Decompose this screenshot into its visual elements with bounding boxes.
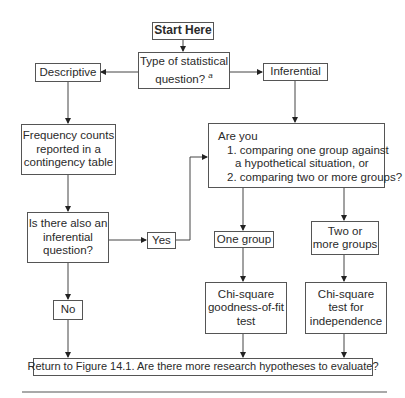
independence-line2: test for bbox=[310, 301, 382, 315]
inferential-label: Inferential bbox=[270, 65, 321, 79]
frequency-line3: contingency table bbox=[23, 156, 114, 170]
two-groups-line1: Two or bbox=[313, 225, 378, 239]
frequency-counts-box: Frequency counts reported in a contingen… bbox=[21, 124, 116, 175]
footnote-marker: a bbox=[208, 71, 212, 80]
option-1-line2: a hypothetical situation, or bbox=[218, 157, 402, 171]
two-groups-box: Two or more groups bbox=[311, 221, 379, 255]
independence-box: Chi-square test for independence bbox=[305, 282, 387, 334]
descriptive-box: Descriptive bbox=[35, 63, 101, 82]
also-inferential-line1: Is there also an bbox=[29, 217, 108, 231]
are-you-heading: Are you bbox=[218, 130, 402, 144]
yes-box: Yes bbox=[147, 232, 176, 249]
return-box: Return to Figure 14.1. Are there more re… bbox=[33, 358, 373, 376]
question-type-line2: question? a bbox=[140, 69, 228, 86]
one-group-box: One group bbox=[214, 231, 274, 248]
one-group-label: One group bbox=[217, 233, 271, 247]
option-2: 2. comparing two or more groups? bbox=[218, 171, 402, 185]
no-label: No bbox=[61, 303, 76, 317]
also-inferential-line2: inferential bbox=[29, 231, 108, 245]
descriptive-label: Descriptive bbox=[40, 66, 97, 80]
goodness-line1: Chi-square bbox=[208, 288, 284, 302]
question-type-box: Type of statistical question? a bbox=[138, 52, 230, 89]
return-label: Return to Figure 14.1. Are there more re… bbox=[28, 360, 379, 374]
frequency-line1: Frequency counts bbox=[23, 129, 114, 143]
inferential-box: Inferential bbox=[263, 63, 328, 81]
goodness-line2: goodness-of-fit bbox=[208, 301, 284, 315]
independence-line3: independence bbox=[310, 315, 382, 329]
are-you-box: Are you 1. comparing one group against a… bbox=[208, 123, 385, 188]
start-here-box: Start Here bbox=[152, 22, 214, 40]
option-1-line1: 1. comparing one group against bbox=[218, 144, 402, 158]
frequency-line2: reported in a bbox=[23, 143, 114, 157]
goodness-line3: test bbox=[208, 315, 284, 329]
independence-line1: Chi-square bbox=[310, 288, 382, 302]
also-inferential-line3: question? bbox=[29, 244, 108, 258]
two-groups-line2: more groups bbox=[313, 238, 378, 252]
no-box: No bbox=[53, 300, 83, 320]
question-type-line1: Type of statistical bbox=[140, 55, 228, 69]
also-inferential-box: Is there also an inferential question? bbox=[27, 212, 109, 263]
yes-label: Yes bbox=[152, 234, 171, 248]
goodness-of-fit-box: Chi-square goodness-of-fit test bbox=[205, 282, 287, 334]
start-here-label: Start Here bbox=[154, 24, 211, 38]
